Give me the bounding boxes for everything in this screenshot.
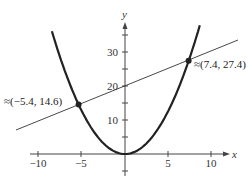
chart: x y −10 −5 5 10 10 20 30 ≈(−5.4, 14.6) ≈… bbox=[0, 0, 252, 186]
line-series bbox=[16, 40, 238, 130]
x-tick-label: −5 bbox=[75, 157, 87, 169]
parabola-series bbox=[52, 25, 200, 154]
y-tick-label: 20 bbox=[107, 80, 119, 92]
x-tick-label: −10 bbox=[29, 157, 47, 169]
intersection-point-right bbox=[186, 58, 192, 64]
point-label-right: ≈(7.4, 27.4) bbox=[194, 58, 246, 71]
y-tick-label: 30 bbox=[107, 46, 119, 58]
intersection-point-left bbox=[76, 101, 82, 107]
x-tick-label: 10 bbox=[206, 157, 218, 169]
y-axis-label: y bbox=[121, 8, 127, 20]
x-axis-arrow-icon bbox=[223, 152, 230, 157]
point-label-left: ≈(−5.4, 14.6) bbox=[4, 95, 62, 108]
y-axis-arrow-icon bbox=[123, 22, 128, 29]
y-tick-label: 10 bbox=[107, 114, 119, 126]
x-tick-label: 5 bbox=[165, 157, 171, 169]
x-axis-label: x bbox=[231, 148, 237, 160]
